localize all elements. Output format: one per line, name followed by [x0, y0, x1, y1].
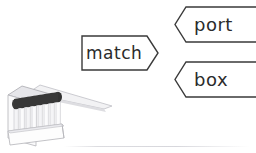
word-shape-port[interactable]: port: [170, 6, 256, 43]
word-shape-box[interactable]: box: [170, 61, 256, 98]
word-shape-match[interactable]: match: [81, 35, 159, 71]
bottom-divider: [64, 146, 250, 147]
matchbook-illustration: [6, 83, 118, 147]
word-label-match: match: [81, 43, 142, 63]
word-label-box: box: [170, 69, 228, 90]
word-label-port: port: [170, 14, 233, 35]
matchbook-svg: [6, 83, 118, 147]
diagram-canvas: match port box: [0, 0, 256, 153]
